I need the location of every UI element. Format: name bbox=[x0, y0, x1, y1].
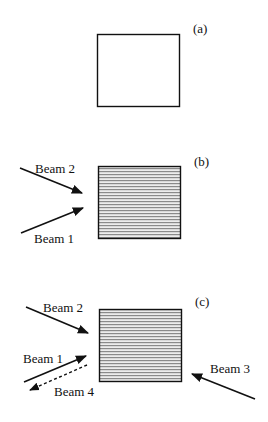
panel-b-label: (b) bbox=[194, 155, 209, 168]
panel-a bbox=[98, 35, 180, 107]
panel-b bbox=[20, 167, 181, 239]
grating-box bbox=[100, 310, 182, 382]
panel-c-beam-2-label: Beam 2 bbox=[43, 301, 83, 314]
beam-3-arrow bbox=[192, 374, 255, 399]
panel-a-label: (a) bbox=[193, 22, 207, 35]
empty-medium-box bbox=[98, 35, 180, 107]
panel-b-beam-1-label: Beam 1 bbox=[34, 232, 74, 245]
panel-b-beam-2-label: Beam 2 bbox=[35, 162, 75, 175]
panel-c-beam-4-label: Beam 4 bbox=[54, 385, 94, 398]
beam-1-arrow bbox=[21, 208, 83, 233]
panel-c-label: (c) bbox=[195, 295, 209, 308]
panel-c-beam-3-label: Beam 3 bbox=[210, 362, 250, 375]
panel-c-beam-1-label: Beam 1 bbox=[23, 352, 63, 365]
grating-box bbox=[99, 167, 181, 239]
